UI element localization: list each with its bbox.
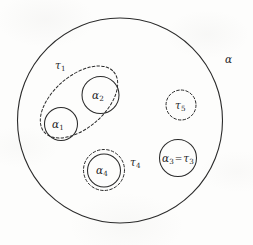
set-diagram-figure: α τ1 α1 α2 τ5 α3=τ3 α4 τ4 — [0, 0, 253, 245]
label-tau5-base: τ — [175, 99, 181, 111]
label-alpha3-equals-tau3: α3=τ3 — [162, 153, 194, 164]
label-tau5: τ5 — [175, 100, 185, 111]
tau1-ellipse — [27, 52, 131, 152]
label-alpha4-sub: 4 — [103, 169, 108, 178]
label-alpha-text: α — [225, 53, 232, 65]
label-tau4-base: τ — [130, 156, 136, 168]
diagram-canvas — [0, 0, 253, 245]
label-tau3-sub: 3 — [189, 157, 194, 166]
label-tau1: τ1 — [55, 60, 65, 71]
label-tau5-sub: 5 — [181, 104, 186, 113]
label-alpha4: α4 — [96, 165, 108, 176]
label-tau4: τ4 — [130, 157, 140, 168]
label-equals-sign: = — [174, 154, 184, 164]
label-alpha1: α1 — [52, 119, 64, 130]
label-alpha2-sub: 2 — [99, 94, 104, 103]
label-tau1-sub: 1 — [61, 64, 66, 73]
alpha-outer-circle — [18, 18, 223, 223]
label-alpha: α — [225, 54, 232, 65]
label-alpha3-sub: 3 — [169, 157, 174, 166]
label-tau1-base: τ — [55, 59, 61, 71]
label-alpha1-sub: 1 — [59, 123, 64, 132]
label-alpha2: α2 — [92, 90, 104, 101]
label-tau4-sub: 4 — [136, 161, 141, 170]
